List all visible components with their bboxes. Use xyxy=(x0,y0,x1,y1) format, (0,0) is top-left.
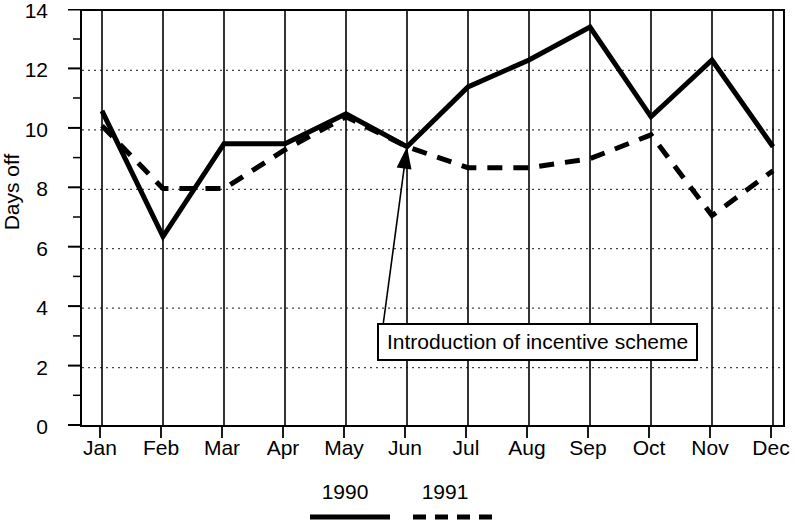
annotation-callout: Introduction of incentive scheme xyxy=(377,323,698,361)
legend-label-1991: 1991 xyxy=(405,481,485,502)
y-tick-label-8: 8 xyxy=(8,178,48,199)
y-tick-label-6: 6 xyxy=(8,238,48,259)
y-tick-label-14: 14 xyxy=(8,0,48,21)
y-tick-label-0: 0 xyxy=(8,416,48,437)
plot-svg xyxy=(82,11,783,425)
y-tick-label-2: 2 xyxy=(8,357,48,378)
x-axis-ticks xyxy=(80,427,786,439)
plot-area xyxy=(80,9,785,427)
vertical-gridlines xyxy=(102,11,773,425)
x-tick-label-dec: Dec xyxy=(731,437,798,458)
series-line-1991 xyxy=(102,117,773,216)
y-axis-ticks xyxy=(68,9,82,428)
series-line-1990 xyxy=(102,27,773,236)
y-tick-label-12: 12 xyxy=(8,59,48,80)
y-tick-label-10: 10 xyxy=(8,119,48,140)
legend-swatches xyxy=(280,511,520,525)
legend-label-1990: 1990 xyxy=(305,481,385,502)
chart-figure: Days off 14 12 10 8 6 4 2 0 xyxy=(0,0,798,531)
y-tick-label-4: 4 xyxy=(8,297,48,318)
